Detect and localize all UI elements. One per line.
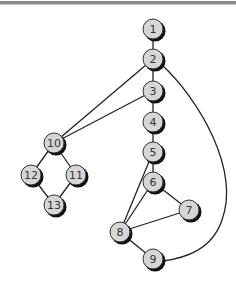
node-label: 2 [150,53,157,66]
node-label: 13 [47,199,61,212]
node-label: 3 [150,85,157,98]
node-7: 7 [179,200,202,223]
nodes-layer: 12345678910111213 [21,19,202,272]
node-12: 12 [21,165,44,188]
node-8: 8 [110,222,133,245]
node-13: 13 [44,195,67,218]
node-3: 3 [143,81,166,104]
edge-2-10 [54,59,153,143]
node-label: 8 [117,226,124,239]
node-label: 9 [150,253,157,266]
edge-3-10 [54,91,153,143]
node-4: 4 [143,112,166,135]
node-1: 1 [143,19,166,42]
node-label: 4 [150,116,157,129]
edge-2-9 [161,64,226,261]
node-5: 5 [143,142,166,165]
node-label: 7 [186,204,193,217]
node-label: 12 [24,169,38,182]
control-flow-graph: 12345678910111213 [0,0,236,290]
node-2: 2 [143,49,166,72]
node-9: 9 [143,249,166,272]
node-label: 11 [69,169,83,182]
node-label: 5 [150,146,157,159]
edge-5-8 [120,152,153,232]
node-label: 6 [150,176,157,189]
node-label: 10 [47,137,61,150]
node-label: 1 [150,23,157,36]
